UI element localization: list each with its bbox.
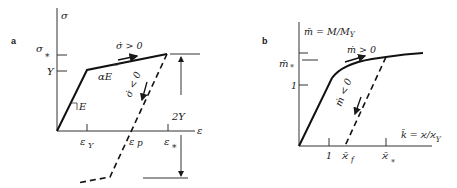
eps-p-sub: p (137, 138, 143, 148)
kappa-f-sub: f (350, 155, 355, 164)
hardening-label: αE (98, 71, 113, 82)
epsilon-axis-label: ε (197, 125, 202, 136)
modulus-label: E (78, 101, 87, 112)
loading-curve (57, 54, 167, 131)
e-slope-triangle (71, 103, 77, 110)
curvature-axis-label: k̄ = ϰ/ϰY (401, 129, 442, 144)
range-label: 2Y (171, 111, 186, 122)
sigma-axis-label: σ (61, 10, 69, 21)
unloading-arrow (142, 82, 147, 100)
unloading-path-b (345, 57, 386, 146)
sigma-star-sub: * (45, 52, 50, 62)
kappa-star-sub: * (391, 158, 395, 167)
kappa-f-label: ϰ̄ (341, 150, 349, 161)
panel-a-label: a (11, 36, 17, 46)
yield-label: Y (47, 66, 55, 77)
loading-label: σ̇ > 0 (116, 40, 143, 51)
panel-b: b m̄ = M/MY k̄ = ϰ/ϰY m̄ * 1 1 ϰ̄ f ϰ̄ *… (262, 22, 442, 167)
diagram-canvas: a σ ε σ * Y ε Y ε p ε * E αE σ̇ > 0 (0, 0, 457, 188)
eps-star-label: ε (164, 136, 169, 147)
k-one-label: 1 (326, 150, 332, 161)
eps-y-label: ε (80, 136, 85, 147)
unloading-path (77, 54, 167, 183)
unloading-label: σ̇ < 0 (123, 70, 143, 99)
kappa-star-label: ϰ̄ (381, 150, 389, 161)
loading-label-b: ṁ > 0 (347, 44, 376, 55)
panel-b-label: b (262, 36, 268, 46)
eps-p-label: ε (129, 136, 134, 147)
m-one-label: 1 (291, 80, 297, 91)
m-star-sub: * (290, 63, 294, 72)
m-star-label: m̄ (279, 58, 288, 69)
eps-y-sub: Y (88, 141, 94, 150)
panel-a: a σ ε σ * Y ε Y ε p ε * E αE σ̇ > 0 (11, 8, 202, 183)
moment-axis-label: m̄ = M/MY (304, 26, 356, 39)
sigma-star-label: σ (36, 43, 44, 54)
eps-star-sub: * (172, 143, 177, 153)
unloading-label-b: ṁ < 0 (333, 77, 354, 108)
loading-arrow (118, 56, 137, 60)
